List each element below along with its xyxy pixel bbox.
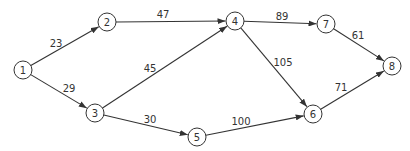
node-1: 1 — [14, 61, 32, 79]
edge-1-2 — [31, 27, 99, 66]
edges-layer — [31, 21, 384, 135]
network-diagram: 2329474530891051006171 12345678 — [0, 0, 410, 151]
edge-weight-3-4: 45 — [144, 63, 157, 74]
edge-5-6 — [206, 116, 304, 135]
node-label: 6 — [310, 109, 316, 120]
edge-weight-1-3: 29 — [63, 83, 76, 94]
node-5: 5 — [188, 128, 206, 146]
node-label: 5 — [194, 132, 200, 143]
node-label: 8 — [389, 61, 395, 72]
edge-3-4 — [103, 26, 228, 108]
node-label: 4 — [232, 16, 238, 27]
edge-weight-6-8: 71 — [335, 82, 348, 93]
node-label: 2 — [104, 17, 110, 28]
edge-4-7 — [244, 21, 317, 23]
nodes-layer: 12345678 — [14, 12, 401, 146]
edge-weight-7-8: 61 — [352, 30, 365, 41]
node-6: 6 — [304, 105, 322, 123]
node-7: 7 — [317, 15, 335, 33]
node-label: 1 — [20, 65, 26, 76]
edge-weight-1-2: 23 — [50, 38, 63, 49]
edge-weight-4-6: 105 — [273, 57, 292, 68]
node-2: 2 — [98, 13, 116, 31]
edge-weight-4-7: 89 — [276, 11, 289, 22]
edge-weight-5-6: 100 — [231, 116, 250, 127]
edge-weight-2-4: 47 — [157, 9, 170, 20]
node-label: 7 — [323, 19, 329, 30]
edge-2-4 — [116, 21, 226, 22]
edge-weight-3-5: 30 — [144, 114, 157, 125]
edge-1-3 — [31, 75, 87, 109]
node-4: 4 — [226, 12, 244, 30]
node-3: 3 — [86, 104, 104, 122]
edge-6-8 — [321, 71, 384, 109]
node-8: 8 — [383, 57, 401, 75]
node-label: 3 — [92, 108, 98, 119]
